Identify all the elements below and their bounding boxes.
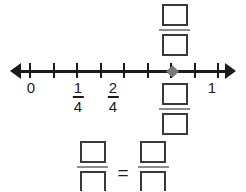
denominator-answer-box[interactable] xyxy=(80,171,106,192)
denominator-answer-box[interactable] xyxy=(140,171,166,192)
fraction-below-line xyxy=(159,83,190,135)
fraction-one-fourth: 1 4 xyxy=(72,80,84,114)
fraction-two-fourths: 2 4 xyxy=(107,80,119,114)
axis-label-one-text: 1 xyxy=(208,80,216,95)
axis-label-zero-text: 0 xyxy=(27,80,35,95)
numerator-answer-box[interactable] xyxy=(80,141,106,163)
numerator-answer-box[interactable] xyxy=(162,4,188,26)
fraction-denominator: 4 xyxy=(107,98,119,114)
numerator-answer-box[interactable] xyxy=(140,141,166,163)
fraction-above-line xyxy=(159,4,190,56)
equation-left-fraction xyxy=(77,141,108,191)
equivalence-equation: = xyxy=(0,141,246,191)
numerator-answer-box[interactable] xyxy=(162,83,188,105)
axis-label-one: 1 xyxy=(208,80,216,95)
axis-label-zero: 0 xyxy=(27,80,35,95)
fraction-bar-icon xyxy=(159,29,190,32)
worksheet-figure: 0 1 4 2 4 1 xyxy=(0,0,246,191)
arrow-right-icon xyxy=(225,63,236,79)
point-marker xyxy=(166,65,179,78)
tick-mark xyxy=(53,63,55,78)
denominator-answer-box[interactable] xyxy=(162,34,188,56)
fraction-numerator: 2 xyxy=(107,80,119,96)
tick-mark xyxy=(123,63,125,78)
fraction-bar-icon xyxy=(77,166,108,169)
tick-mark xyxy=(100,63,102,78)
equation-right-fraction xyxy=(138,141,169,191)
arrow-left-icon xyxy=(10,63,21,79)
fraction-numerator: 1 xyxy=(72,80,84,96)
tick-mark xyxy=(194,63,196,78)
denominator-answer-box[interactable] xyxy=(162,113,188,135)
tick-mark xyxy=(217,63,219,78)
fraction-denominator: 4 xyxy=(72,98,84,114)
tick-mark xyxy=(76,63,78,78)
tick-mark xyxy=(147,63,149,78)
fraction-bar-icon xyxy=(159,108,190,111)
fraction-bar-icon xyxy=(138,166,169,169)
axis-label-one-fourth: 1 4 xyxy=(72,80,84,114)
equals-sign: = xyxy=(117,163,128,182)
axis-label-two-fourths: 2 4 xyxy=(107,80,119,114)
tick-mark xyxy=(29,63,31,78)
